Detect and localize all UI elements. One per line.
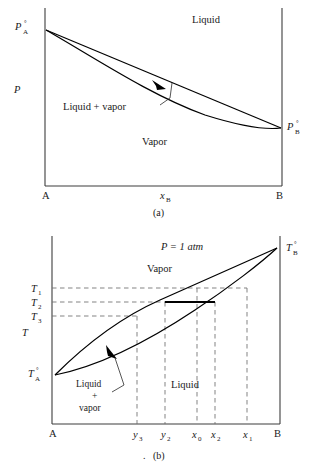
panel-a-x-axis-label: x B <box>159 190 171 204</box>
svg-text:1: 1 <box>249 435 253 443</box>
panel-a-caption: (a) <box>153 207 164 219</box>
panel-a-liquid-line <box>46 30 281 128</box>
svg-text:T: T <box>286 242 293 253</box>
panel-b-tick-x2: x 2 <box>210 429 221 443</box>
phase-diagram-figure: P ° A P ° B P Liquid Vapor Liquid + vapo… <box>0 0 322 473</box>
panel-b-y-axis-label: T <box>22 327 29 338</box>
svg-text:°: ° <box>24 19 27 26</box>
panel-b-region-liquid: Liquid <box>171 379 200 390</box>
panel-b-arrow-icon <box>106 345 117 359</box>
svg-text:x: x <box>191 429 197 440</box>
panel-b-region-vapor: Vapor <box>147 263 173 274</box>
panel-b-tick-t3: T 3 <box>31 311 42 325</box>
panel-b-tick-t2: T 2 <box>31 297 42 311</box>
svg-text:°: ° <box>294 240 297 247</box>
panel-b-corner-a: A <box>49 428 57 439</box>
panel-a-y-axis-label: P <box>13 84 21 95</box>
svg-text:0: 0 <box>198 435 202 443</box>
panel-b-region-lv-line1: Liquid <box>76 379 102 389</box>
svg-text:A: A <box>23 28 28 36</box>
svg-text:P: P <box>286 121 294 132</box>
svg-text:T: T <box>28 368 35 379</box>
panel-a-region-liquid-vapor: Liquid + vapor <box>63 101 127 112</box>
panel-b-caption: (b) <box>153 450 165 462</box>
panel-b-tb-label: T ° B <box>286 240 298 257</box>
svg-text:°: ° <box>296 119 299 126</box>
panel-b-tick-y3: y 3 <box>132 429 143 443</box>
panel-b-tick-x0: x 0 <box>191 429 202 443</box>
panel-b-region-lv-line2: + <box>92 391 97 401</box>
panel-a: P ° A P ° B P Liquid Vapor Liquid + vapo… <box>13 8 300 219</box>
svg-text:2: 2 <box>38 303 42 311</box>
svg-text:x: x <box>242 429 248 440</box>
svg-text:°: ° <box>36 366 39 373</box>
svg-text:y: y <box>160 429 166 440</box>
panel-a-corner-b: B <box>276 190 283 201</box>
svg-text:T: T <box>31 297 38 308</box>
panel-a-corner-a: A <box>42 190 50 201</box>
svg-text:x: x <box>210 429 216 440</box>
panel-a-region-vapor: Vapor <box>142 136 168 147</box>
svg-text:2: 2 <box>217 435 221 443</box>
svg-text:A: A <box>35 375 40 383</box>
panel-b-leader-line <box>112 358 124 392</box>
svg-text:B: B <box>295 128 300 136</box>
svg-text:P: P <box>14 21 22 32</box>
panel-b: T T 1 T 2 T 3 T ° A T ° B P = 1 atm <box>22 236 298 462</box>
svg-text:1: 1 <box>38 289 42 297</box>
panel-b-tick-t1: T 1 <box>31 283 42 297</box>
panel-a-region-liquid: Liquid <box>192 14 221 25</box>
svg-text:T: T <box>31 283 38 294</box>
svg-text:3: 3 <box>38 317 42 325</box>
panel-b-region-lv-line3: vapor <box>79 403 101 413</box>
svg-text:x: x <box>159 190 165 201</box>
panel-b-corner-b: B <box>274 428 281 439</box>
svg-text:B: B <box>166 196 171 204</box>
panel-b-tick-x1: x 1 <box>242 429 253 443</box>
svg-text:2: 2 <box>167 435 171 443</box>
panel-a-pb-label: P ° B <box>286 119 300 136</box>
svg-text:B: B <box>293 249 298 257</box>
panel-b-tick-y2: y 2 <box>160 429 171 443</box>
svg-text:3: 3 <box>139 435 143 443</box>
svg-text:y: y <box>132 429 138 440</box>
panel-a-pa-label: P ° A <box>14 19 28 36</box>
panel-b-ta-label: T ° A <box>28 366 40 383</box>
panel-a-arrow-icon <box>152 80 166 90</box>
svg-text:T: T <box>31 311 38 322</box>
panel-b-pressure-note: P = 1 atm <box>160 241 204 252</box>
panel-b-caption-mark: . <box>143 450 146 461</box>
